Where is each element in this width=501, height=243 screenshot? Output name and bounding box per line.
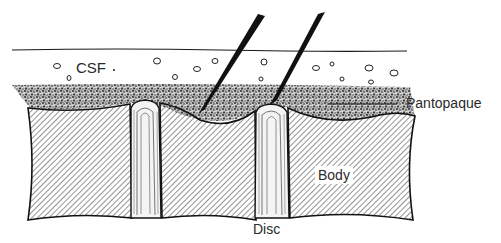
vertebral-body-middle	[160, 103, 256, 220]
label-pantopaque: Pantopaque	[406, 96, 482, 110]
disc-left	[131, 100, 161, 218]
vertebral-body-left	[28, 104, 132, 220]
label-csf: CSF	[76, 60, 106, 75]
vertebral-body-right	[288, 108, 415, 220]
label-body: Body	[315, 166, 353, 184]
dura-line	[12, 49, 407, 51]
spine-diagram	[0, 0, 501, 243]
diagram-canvas: CSF Pantopaque Body Disc	[0, 0, 501, 243]
disc-right	[255, 104, 289, 218]
label-disc: Disc	[253, 222, 280, 236]
